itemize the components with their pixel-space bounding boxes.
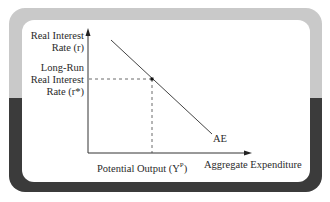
x-axis-arrow-icon xyxy=(244,151,252,156)
y-axis-label-line2: Rate (r) xyxy=(31,42,84,54)
y-axis-arrow-icon xyxy=(86,28,91,36)
potential-output-label: Potential Output (YP) xyxy=(97,159,187,175)
potential-output-suffix: ) xyxy=(184,163,188,174)
y-axis-label: Real Interest Rate (r) xyxy=(31,30,84,54)
long-run-line1: Long-Run xyxy=(31,62,84,74)
y-axis-label-line1: Real Interest xyxy=(31,30,84,42)
ae-curve-label: AE xyxy=(213,133,227,145)
long-run-line2: Real Interest xyxy=(31,74,84,86)
long-run-rate-label: Long-Run Real Interest Rate (r*) xyxy=(31,62,84,98)
long-run-line3: Rate (r*) xyxy=(31,86,84,98)
x-axis-label: Aggregate Expenditure xyxy=(204,159,302,171)
ae-curve xyxy=(111,40,212,134)
equilibrium-point xyxy=(151,78,154,81)
potential-output-text: Potential Output (Y xyxy=(97,163,180,174)
